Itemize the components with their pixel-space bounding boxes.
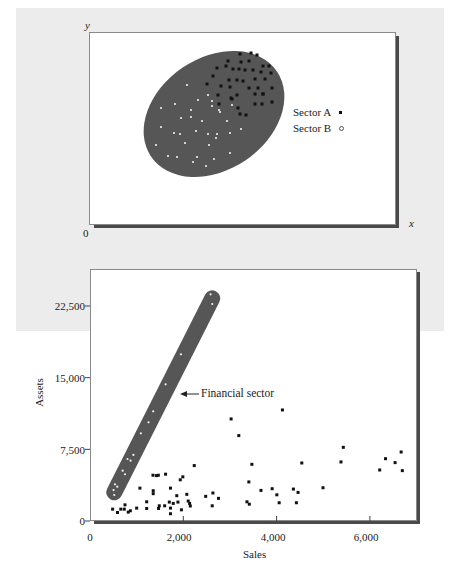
firm-point	[281, 408, 284, 411]
financial-sector-point	[112, 489, 114, 491]
firm-point	[278, 501, 281, 504]
firm-point	[179, 478, 182, 481]
firm-point	[152, 492, 155, 495]
firm-point	[169, 487, 172, 490]
firm-point	[169, 512, 172, 515]
firm-point	[217, 497, 220, 500]
x-tick-label-2000: 2,000	[154, 532, 204, 543]
x-tick-label-0: 0	[65, 532, 115, 543]
firm-point	[394, 461, 397, 464]
firm-point	[300, 461, 303, 464]
firm-point	[169, 507, 172, 510]
firm-point	[157, 474, 160, 477]
firm-point	[295, 501, 298, 504]
firm-point	[271, 487, 274, 490]
firm-point	[259, 489, 262, 492]
financial-sector-point	[164, 383, 166, 385]
firm-point	[175, 494, 178, 497]
financial-sector-point	[211, 303, 213, 305]
firm-point	[248, 503, 251, 506]
firm-point	[247, 480, 250, 483]
y-axis-title: Assets	[34, 378, 45, 407]
x-tick-label-6000: 6,000	[341, 532, 391, 543]
y-tick-label-22500: 22,500	[25, 301, 85, 312]
financial-sector-point	[209, 293, 211, 295]
firm-point	[172, 502, 175, 505]
financial-sector-point	[114, 483, 116, 485]
firm-point	[297, 491, 300, 494]
firm-point	[185, 493, 188, 496]
firm-point	[189, 504, 192, 507]
axis-ticks-group	[85, 306, 370, 521]
firm-point	[111, 508, 114, 511]
firm-point	[119, 508, 122, 511]
y-tick-label-7500: 7,500	[25, 445, 85, 456]
firm-point	[151, 474, 154, 477]
firm-point	[193, 464, 196, 467]
firm-point	[384, 457, 387, 460]
firm-point	[237, 434, 240, 437]
firm-point	[339, 460, 342, 463]
firm-point	[164, 473, 167, 476]
firm-point	[342, 446, 345, 449]
firm-point	[129, 509, 132, 512]
firm-point	[211, 504, 214, 507]
financial-sector-point	[180, 353, 182, 355]
financial-sector-point	[126, 458, 128, 460]
firm-point	[163, 504, 166, 507]
firm-point	[250, 463, 253, 466]
firm-point	[180, 508, 183, 511]
firm-point	[204, 495, 207, 498]
firm-point	[138, 487, 141, 490]
firm-point	[378, 468, 381, 471]
firm-point	[123, 503, 126, 506]
firm-point	[322, 486, 325, 489]
financial-sector-point	[113, 494, 115, 496]
firm-point	[211, 492, 214, 495]
firm-point	[188, 502, 191, 505]
firm-point	[401, 469, 404, 472]
annotation-arrow-icon	[180, 391, 199, 397]
financial-sector-point	[152, 410, 154, 412]
financial-sector-point	[132, 454, 134, 456]
financial-sector-point	[116, 486, 118, 488]
firm-point	[168, 501, 171, 504]
firm-point	[123, 508, 126, 511]
firm-point	[181, 475, 184, 478]
bottom-scatter-canvas	[0, 0, 458, 579]
firm-point	[400, 451, 403, 454]
firm-point	[135, 507, 138, 510]
financial-sector-annotation: Financial sector	[201, 388, 274, 400]
firm-point	[157, 507, 160, 510]
financial-sector-point	[124, 473, 126, 475]
financial-sector-point	[122, 470, 124, 472]
financial-sector-point	[140, 432, 142, 434]
firm-point	[158, 504, 161, 507]
firm-point	[116, 511, 119, 514]
firm-point	[275, 493, 278, 496]
y-tick-label-0: 0	[25, 516, 85, 527]
x-tick-label-4000: 4,000	[248, 532, 298, 543]
firm-point	[230, 417, 233, 420]
firm-point	[152, 489, 155, 492]
firm-point	[145, 507, 148, 510]
firm-point	[145, 500, 148, 503]
firm-point	[292, 488, 295, 491]
firm-point	[176, 501, 179, 504]
financial-sector-point	[147, 421, 149, 423]
x-axis-title: Sales	[243, 549, 266, 560]
financial-sector-point	[129, 460, 131, 462]
